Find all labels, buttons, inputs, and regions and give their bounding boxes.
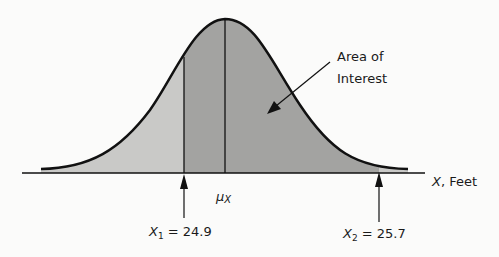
- axis-label: X, Feet: [431, 174, 477, 189]
- mean-label: μX: [215, 189, 232, 205]
- left-tail-area: [22, 0, 184, 173]
- x2-label: X2 = 25.7: [342, 226, 406, 243]
- x1-arrow-icon: [180, 174, 188, 218]
- normal-curve-diagram: Area of Interest X, Feet μX X1 = 24.9 X2…: [0, 0, 499, 257]
- annotation-line1: Area of: [337, 49, 384, 64]
- right-tail-area: [379, 0, 419, 173]
- area-of-interest: [184, 0, 379, 173]
- x2-arrow-icon: [375, 172, 383, 222]
- axis-unit: , Feet: [441, 174, 477, 189]
- annotation-line2: Interest: [337, 71, 387, 86]
- x1-label: X1 = 24.9: [148, 224, 212, 241]
